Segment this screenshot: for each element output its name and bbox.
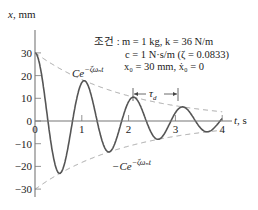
lower-envelope-label: −Ce−ζωₙt (112, 158, 152, 172)
x-tick-label: 2 (126, 123, 132, 135)
x-tick-label: 1 (79, 123, 85, 135)
x-axis-label: t, s (234, 114, 247, 126)
upper-envelope-label: Ce−ζωₙt (72, 65, 104, 79)
chart-figure: 012343020100−10−20−30 x, mm t, s 조건 : m … (0, 0, 258, 210)
conditions-line-3: x₀ = 30 mm, ẋ₀ = 0 (124, 61, 204, 72)
plot-area: 012343020100−10−20−30 x, mm t, s 조건 : m … (0, 0, 258, 210)
y-tick-label: −20 (15, 160, 33, 172)
y-tick-label: 10 (21, 92, 33, 104)
x-tick-label: 3 (173, 123, 179, 135)
y-tick-label: 20 (21, 70, 33, 82)
damped-period-marker: τd (133, 87, 178, 102)
conditions-prefix: 조건 : (94, 36, 120, 47)
y-tick-label: 0 (27, 115, 33, 127)
y-tick-label: 30 (21, 47, 33, 59)
y-tick-label: −10 (15, 138, 33, 150)
y-tick-label: −30 (15, 183, 33, 195)
x-tick-label: 0 (32, 123, 38, 135)
period-label: τd (149, 87, 157, 102)
x-tick-label: 4 (219, 123, 225, 135)
y-axis-label: x, mm (7, 8, 36, 20)
conditions-line-2: c = 1 N·s/m (ζ = 0.0833) (125, 49, 229, 61)
conditions-line-1: m = 1 kg, k = 36 N/m (122, 36, 213, 47)
